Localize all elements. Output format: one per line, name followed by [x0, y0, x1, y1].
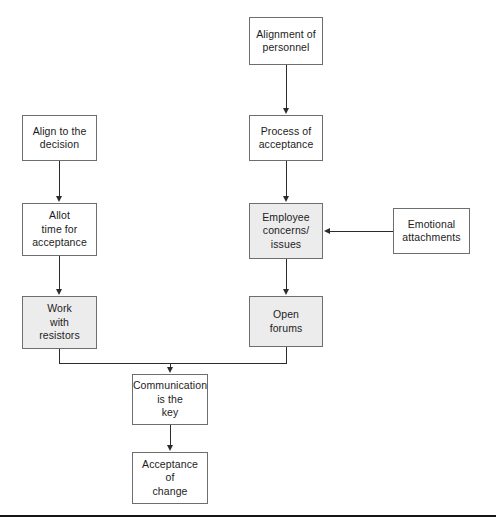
connector-employee-to-open [286, 259, 287, 290]
node-align-to-the-decision[interactable]: Align to the decision [22, 115, 97, 161]
page-divider-rule [0, 515, 496, 517]
node-process-of-acceptance[interactable]: Process of acceptance [249, 115, 323, 161]
connector-emotional-to-employee [330, 231, 393, 232]
node-work-with-resistors[interactable]: Work with resistors [22, 296, 97, 349]
connector-allot-to-work [59, 256, 60, 290]
connector-align-to-allot [59, 161, 60, 197]
arrowhead-allot-to-work-icon [56, 289, 62, 295]
node-emotional-attachments[interactable]: Emotional attachments [393, 208, 470, 254]
node-open-forums[interactable]: Open forums [249, 296, 323, 347]
connector-junction-horizontal [59, 363, 287, 364]
connector-process-to-employee [286, 161, 287, 197]
connector-alignment-to-process [286, 65, 287, 109]
node-allot-time-for-acceptance[interactable]: Allot time for acceptance [22, 203, 97, 256]
arrowhead-alignment-to-process-icon [283, 108, 289, 114]
connector-open-to-junction-vertical [286, 347, 287, 364]
node-communication-is-the-key[interactable]: Communication is the key [132, 374, 208, 425]
node-employee-concerns-issues[interactable]: Employee concerns/ issues [249, 203, 323, 259]
arrowhead-communication-to-acceptance-icon [167, 445, 173, 451]
arrowhead-junction-to-communication-icon [167, 367, 173, 373]
node-acceptance-of-change[interactable]: Acceptance of change [132, 452, 208, 504]
arrowhead-process-to-employee-icon [283, 196, 289, 202]
arrowhead-employee-to-open-icon [283, 289, 289, 295]
arrowhead-align-to-allot-icon [56, 196, 62, 202]
arrowhead-emotional-to-employee-icon [324, 228, 330, 234]
flowchart-canvas: Alignment of personnel Align to the deci… [0, 0, 496, 529]
node-alignment-of-personnel[interactable]: Alignment of personnel [249, 17, 323, 65]
connector-communication-to-acceptance [170, 425, 171, 446]
connector-work-to-junction-vertical [59, 349, 60, 364]
